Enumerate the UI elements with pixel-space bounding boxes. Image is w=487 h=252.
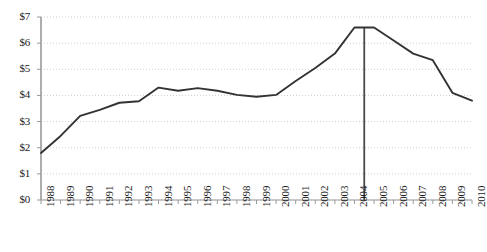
- x-axis-label: 2000: [280, 186, 291, 207]
- x-axis-label: 2010: [476, 186, 487, 207]
- x-axis-label: 2009: [456, 186, 467, 207]
- x-axis-label: 2004: [358, 186, 369, 207]
- x-axis-label: 2002: [319, 186, 330, 207]
- x-axis-label: 1994: [163, 186, 174, 207]
- y-axis-label: $3: [4, 116, 30, 127]
- data-series-line: [41, 27, 472, 152]
- y-axis-label: $7: [4, 11, 30, 22]
- x-axis-label: 2001: [300, 186, 311, 207]
- x-axis-label: 1992: [123, 186, 134, 207]
- x-axis-label: 2007: [417, 186, 428, 207]
- x-axis-label: 1999: [261, 186, 272, 207]
- y-axis-label: $1: [4, 168, 30, 179]
- x-axis-label: 1997: [221, 186, 232, 207]
- x-axis-label: 2005: [378, 186, 389, 207]
- x-axis-label: 1990: [84, 186, 95, 207]
- y-axis-label: $6: [4, 37, 30, 48]
- x-axis-label: 2006: [398, 186, 409, 207]
- x-axis-label: 1993: [143, 186, 154, 207]
- y-axis-label: $4: [4, 89, 30, 100]
- x-axis-label: 1988: [45, 186, 56, 207]
- x-axis-label: 1995: [182, 186, 193, 207]
- y-axis-label: $5: [4, 63, 30, 74]
- x-axis-label: 1991: [104, 186, 115, 207]
- y-axis-label: $0: [4, 194, 30, 205]
- x-axis-label: 2003: [339, 186, 350, 207]
- x-axis-label: 1989: [65, 186, 76, 207]
- x-axis-label: 2008: [437, 186, 448, 207]
- x-axis-label: 1998: [241, 186, 252, 207]
- x-axis-label: 1996: [202, 186, 213, 207]
- y-axis-label: $2: [4, 142, 30, 153]
